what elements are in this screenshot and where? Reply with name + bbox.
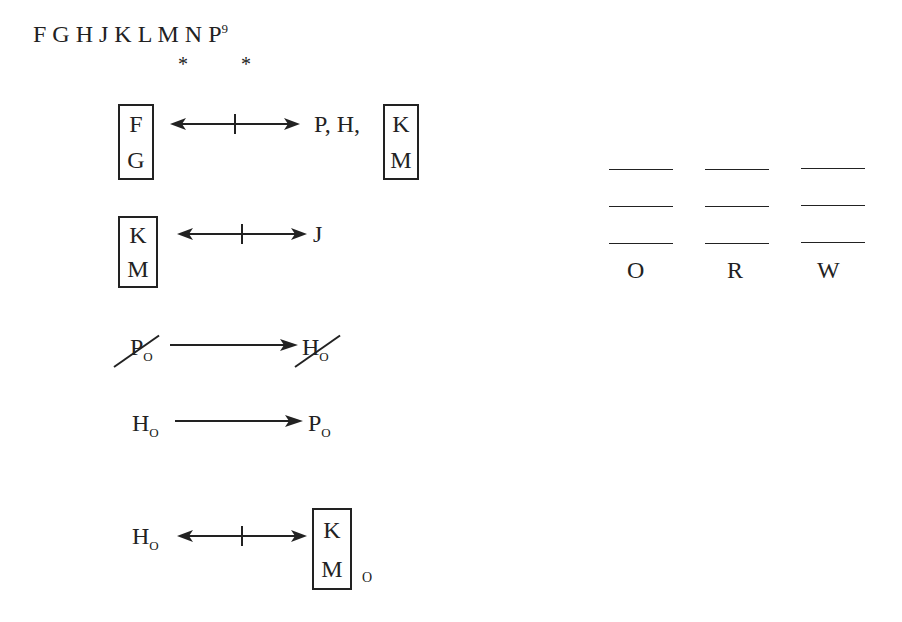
- box-item: K: [392, 112, 409, 136]
- rule2-right-text: J: [313, 222, 322, 246]
- not-together-arrow-icon: [177, 524, 307, 548]
- group-label-w: W: [817, 258, 840, 282]
- slot-r-2: [705, 206, 769, 207]
- box-item: M: [390, 148, 411, 172]
- letters: F G H J K L M N P: [33, 21, 221, 47]
- box-item: M: [321, 557, 342, 581]
- rule1-right-text: P, H,: [314, 112, 360, 136]
- subscript: O: [143, 349, 152, 364]
- implies-arrow-icon: [175, 413, 303, 429]
- box-item: F: [129, 112, 142, 136]
- rule5-right-box: K M: [312, 508, 352, 590]
- subscript: O: [321, 425, 330, 440]
- box-item: K: [129, 223, 146, 247]
- star-mark-l: *: [178, 54, 188, 74]
- slot-o-2: [609, 206, 673, 207]
- slot-w-3: [801, 242, 865, 243]
- rule4-right: PO: [308, 411, 331, 439]
- entity-count: 9: [221, 21, 228, 36]
- slot-o-1: [609, 169, 673, 170]
- slot-o-3: [609, 243, 673, 244]
- not-together-arrow-icon: [170, 112, 300, 136]
- box-item: G: [127, 148, 144, 172]
- box-item: K: [323, 518, 340, 542]
- implies-arrow-icon: [170, 337, 298, 353]
- entity-list: F G H J K L M N P9: [33, 22, 228, 46]
- rule5-left: HO: [132, 524, 159, 552]
- var: P: [308, 410, 321, 436]
- rule5-right-subscript: O: [362, 570, 372, 586]
- group-label-o: O: [627, 258, 644, 282]
- rule1-left-box: F G: [118, 104, 154, 180]
- rule4-left: HO: [132, 411, 159, 439]
- var: H: [132, 410, 149, 436]
- star-mark-n: *: [241, 54, 251, 74]
- rule2-left-box: K M: [118, 216, 158, 288]
- slot-r-3: [705, 243, 769, 244]
- slot-w-1: [801, 168, 865, 169]
- group-label-r: R: [727, 258, 743, 282]
- slot-r-1: [705, 169, 769, 170]
- subscript: O: [149, 425, 158, 440]
- var: H: [132, 523, 149, 549]
- box-item: M: [127, 257, 148, 281]
- slot-w-2: [801, 205, 865, 206]
- not-together-arrow-icon: [177, 222, 307, 246]
- subscript: O: [149, 538, 158, 553]
- subscript: O: [319, 349, 328, 364]
- rule1-right-box: K M: [383, 104, 419, 180]
